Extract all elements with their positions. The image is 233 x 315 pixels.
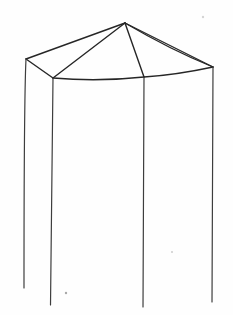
speck-mid-right [171, 251, 173, 253]
speck-bottom-left [65, 292, 67, 294]
roof-edge-apex-to-back-left [26, 23, 125, 59]
rim-edge-back-left-to-front-left [26, 59, 53, 78]
prism-edge-right [212, 67, 213, 302]
speck-top-right [202, 16, 204, 18]
prism-edge-back-left [24, 59, 26, 288]
rim-edge-front-left-to-front-right [53, 77, 144, 80]
rim-edge-front-right-to-right [144, 67, 213, 77]
roof-edge-apex-to-front-left [53, 23, 125, 78]
sketch-page [0, 0, 233, 315]
prism-edge-front-left [51, 78, 54, 305]
hexagonal-prism-drawing [0, 0, 233, 315]
prism-edge-front-right [143, 77, 144, 307]
